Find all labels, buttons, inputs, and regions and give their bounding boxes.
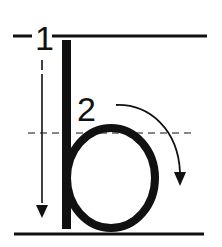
- letter-b-bowl: [67, 128, 155, 228]
- step-2-number: 2: [77, 90, 96, 128]
- step-1-down-arrow-icon: [36, 60, 48, 218]
- step-1-number: 1: [35, 19, 54, 57]
- letter-b-stroke-diagram: 1 2: [0, 0, 222, 247]
